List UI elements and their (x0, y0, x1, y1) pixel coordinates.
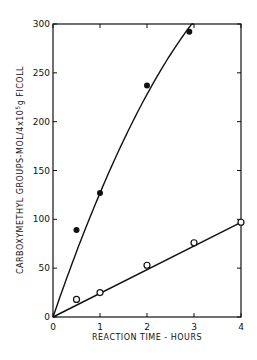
y-tick-label: 100 (33, 214, 50, 224)
open-point (97, 290, 103, 296)
axis-ticks (53, 24, 241, 317)
y-tick-label: 250 (33, 68, 50, 78)
open-point (191, 240, 197, 246)
x-tick-label: 3 (191, 322, 197, 332)
x-tick-label: 4 (238, 322, 244, 332)
filled-point (186, 29, 192, 35)
y-tick-label: 0 (44, 312, 50, 322)
open-point (238, 219, 244, 225)
x-axis-label: REACTION TIME - HOURS (92, 333, 202, 342)
open-point (74, 296, 80, 302)
filled-point (74, 227, 80, 233)
y-axis-label: CARBOXYMETHYL GROUPS-MOL/4x105g FICOLL (14, 66, 25, 274)
y-tick-label: 200 (33, 117, 50, 127)
y-tick-label: 150 (33, 166, 50, 176)
curve-fit (53, 24, 194, 317)
y-tick-label: 50 (39, 263, 51, 273)
x-tick-label: 2 (144, 322, 150, 332)
x-tick-label: 1 (97, 322, 103, 332)
open-point (144, 262, 150, 268)
chart: 01234050100150200250300 REACTION TIME - … (0, 0, 257, 360)
data-points (74, 29, 245, 303)
linear-fit (53, 222, 241, 317)
filled-point (97, 190, 103, 196)
filled-point (144, 83, 150, 89)
fit-lines (53, 24, 241, 317)
plot-frame (53, 24, 241, 317)
x-tick-label: 0 (50, 322, 56, 332)
y-tick-label: 300 (33, 19, 50, 29)
